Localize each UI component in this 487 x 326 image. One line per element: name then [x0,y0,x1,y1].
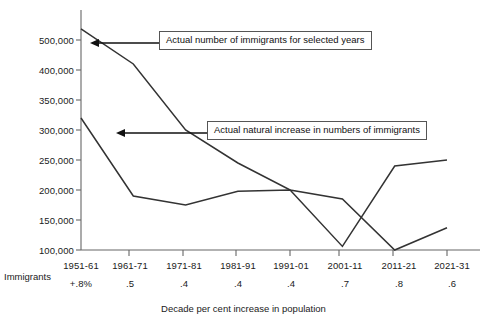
callout-leader-immigrants [90,39,160,47]
x-tick-secondary-label: .6 [434,278,470,289]
x-tick-label: 1961-71 [112,260,148,271]
x-tick-label: 2001-11 [328,260,363,271]
x-tick-secondary-label: .7 [328,278,363,289]
x-tick-group: 1951-61 +.8% [63,260,99,289]
x-tick-label: 1951-61 [63,260,99,271]
x-tick-label: 1991-01 [273,260,309,271]
callout-box-immigrants: Actual number of immigrants for selected… [159,31,372,50]
x-tick-secondary-label: .5 [112,278,148,289]
chart-figure: 500,000 400,000 350,000 300,000 250,000 … [0,0,487,326]
x-tick-label: 1981-91 [220,260,256,271]
x-tick-label: 1971-81 [166,260,202,271]
y-axis-ticks [76,40,81,250]
callout-box-natural-increase: Actual natural increase in numbers of im… [207,121,427,140]
x-tick-group: 2001-11 .7 [328,260,363,289]
x-tick-group: 2011-21 .8 [382,260,417,289]
x-axis-caption: Decade per cent increase in population [0,303,487,314]
x-tick-secondary-label: .8 [382,278,417,289]
x-tick-secondary-label: .4 [166,278,202,289]
x-tick-group: 1991-01 .4 [273,260,309,289]
x-tick-group: 1961-71 .5 [112,260,148,289]
x-tick-label: 2021-31 [434,260,470,271]
x-tick-secondary-label: +.8% [63,278,99,289]
x-axis-ticks [129,250,447,256]
x-tick-group: 2021-31 .6 [434,260,470,289]
x-tick-group: 1981-91 .4 [220,260,256,289]
row-label-immigrants: Immigrants [4,271,51,282]
x-tick-secondary-label: .4 [273,278,309,289]
x-tick-secondary-label: .4 [220,278,256,289]
x-tick-label: 2011-21 [382,260,417,271]
x-tick-group: 1971-81 .4 [166,260,202,289]
